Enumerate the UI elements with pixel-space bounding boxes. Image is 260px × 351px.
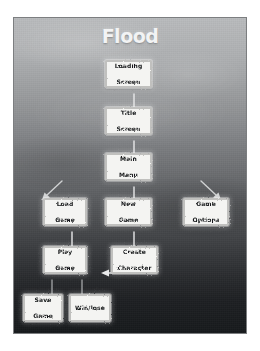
node-label-line1: New bbox=[117, 200, 141, 208]
node-label-line2: Screen bbox=[115, 125, 143, 133]
node-label-line1: Load bbox=[53, 200, 77, 208]
node-play-game[interactable]: Play Game bbox=[43, 246, 87, 274]
diagram-canvas: Flood bbox=[13, 17, 247, 334]
node-label-line1: Win/lose bbox=[73, 304, 107, 312]
node-label-line1: Title bbox=[115, 109, 143, 117]
node-label-line2: Screen bbox=[113, 78, 145, 86]
diagram-page: Flood bbox=[0, 0, 260, 351]
node-label-line2: Game bbox=[53, 264, 77, 272]
node-label-line2: Character bbox=[115, 264, 153, 272]
node-main-menu[interactable]: Main Menu bbox=[105, 153, 152, 181]
node-label-line2: Game bbox=[53, 216, 77, 224]
node-label-line1: Save bbox=[31, 296, 55, 304]
node-game-options[interactable]: Game Options bbox=[183, 198, 229, 226]
node-save-game[interactable]: Save Game bbox=[23, 294, 63, 322]
node-title-screen[interactable]: Title Screen bbox=[105, 107, 152, 135]
page-title: Flood bbox=[14, 25, 246, 47]
node-label-line1: Main bbox=[117, 155, 140, 163]
node-label-line2: Menu bbox=[117, 171, 140, 179]
node-label-line2: Game bbox=[31, 312, 55, 320]
node-load-game[interactable]: Load Game bbox=[43, 198, 87, 226]
node-win-lose[interactable]: Win/lose bbox=[69, 294, 111, 322]
node-label-line2: Game bbox=[117, 216, 141, 224]
node-label-line1: Game bbox=[191, 200, 222, 208]
node-label-line1: Loading bbox=[113, 62, 145, 70]
node-create-character[interactable]: Create Character bbox=[111, 246, 158, 274]
node-new-game[interactable]: New Game bbox=[105, 198, 152, 226]
node-label-line2: Options bbox=[191, 216, 222, 224]
node-loading-screen[interactable]: Loading Screen bbox=[105, 60, 152, 88]
node-label-line1: Play bbox=[53, 248, 77, 256]
node-label-line1: Create bbox=[115, 248, 153, 256]
